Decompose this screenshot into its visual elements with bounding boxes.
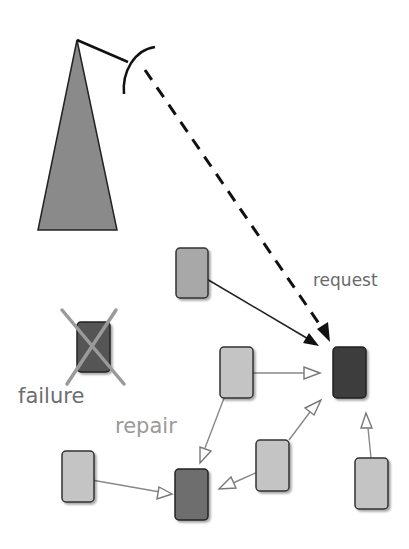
node-b bbox=[220, 347, 253, 398]
edge-b-to-target bbox=[253, 367, 320, 379]
failure-label: failure bbox=[18, 384, 84, 408]
arrowhead-filled bbox=[303, 333, 319, 346]
node-target bbox=[333, 347, 366, 398]
request-edge bbox=[145, 70, 330, 342]
arrowhead-open bbox=[305, 400, 321, 415]
arrowhead-open bbox=[219, 477, 236, 489]
node-c bbox=[62, 451, 94, 502]
cell-tower bbox=[38, 40, 155, 230]
arrowhead-open bbox=[157, 487, 172, 499]
edge-a-to-target bbox=[200, 275, 319, 346]
antenna-arm bbox=[77, 40, 128, 62]
tower-body bbox=[38, 40, 117, 230]
repair-label: repair bbox=[115, 414, 177, 438]
antenna-dish-icon bbox=[124, 47, 155, 94]
node-repair bbox=[175, 469, 208, 520]
network-diagram: request failure repair bbox=[0, 0, 409, 549]
request-label: request bbox=[313, 270, 378, 290]
node-a bbox=[176, 248, 208, 298]
arrowhead-filled bbox=[317, 322, 330, 342]
arrowhead-open bbox=[200, 447, 211, 463]
edge-f-to-target bbox=[361, 413, 372, 458]
edge-c-to-repair bbox=[86, 479, 172, 499]
node-e bbox=[256, 440, 289, 491]
arrowhead-open bbox=[304, 367, 320, 379]
arrowhead-open bbox=[361, 413, 372, 428]
edge-e-to-target bbox=[289, 400, 321, 440]
node-f bbox=[355, 458, 388, 509]
failure-x-icon bbox=[62, 310, 124, 384]
